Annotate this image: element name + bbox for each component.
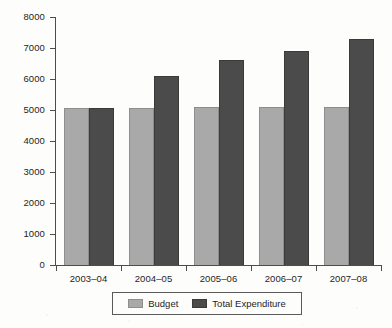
bar-total-expenditure xyxy=(349,39,374,265)
x-axis-tick-label: 2006–07 xyxy=(251,274,316,284)
x-axis-tick xyxy=(56,266,57,271)
y-axis-tick xyxy=(50,79,55,80)
bar-budget xyxy=(259,107,284,265)
y-axis-tick-label: 4000 xyxy=(23,136,45,146)
y-axis-tick xyxy=(50,203,55,204)
bar-budget xyxy=(194,107,219,265)
expenditure-swatch xyxy=(192,299,207,308)
bar-total-expenditure xyxy=(284,51,309,265)
y-axis-tick-label: 0 xyxy=(40,260,45,270)
y-axis-tick-label: 7000 xyxy=(23,43,45,53)
x-axis-line xyxy=(55,265,382,266)
legend-entry: Budget xyxy=(128,299,178,309)
bar-budget xyxy=(129,108,154,265)
y-axis-tick-label: 3000 xyxy=(23,167,45,177)
y-axis-tick-label: 8000 xyxy=(23,12,45,22)
bar-total-expenditure xyxy=(219,60,244,265)
y-axis-tick-label: 5000 xyxy=(23,105,45,115)
x-axis-tick-label: 2003–04 xyxy=(56,274,121,284)
x-axis-tick-label: 2007–08 xyxy=(316,274,381,284)
bar-budget xyxy=(324,107,349,265)
x-axis-tick xyxy=(316,266,317,271)
y-axis-tick-label: 1000 xyxy=(23,229,45,239)
y-axis-tick xyxy=(50,265,55,266)
y-axis-tick-label: 2000 xyxy=(23,198,45,208)
legend-label: Total Expenditure xyxy=(212,299,285,309)
chart-legend: BudgetTotal Expenditure xyxy=(112,292,302,315)
x-axis-tick xyxy=(186,266,187,271)
x-axis-tick xyxy=(251,266,252,271)
plot-area xyxy=(56,17,381,265)
x-axis-tick xyxy=(381,266,382,271)
x-axis-tick-label: 2004–05 xyxy=(121,274,186,284)
x-axis-tick-label: 2005–06 xyxy=(186,274,251,284)
bar-total-expenditure xyxy=(89,108,114,265)
y-axis-tick xyxy=(50,17,55,18)
bar-chart: 010002000300040005000600070008000 2003–0… xyxy=(0,0,392,328)
y-axis-tick xyxy=(50,110,55,111)
legend-label: Budget xyxy=(148,299,178,309)
y-axis-tick-label: 6000 xyxy=(23,74,45,84)
y-axis-tick xyxy=(50,141,55,142)
budget-swatch xyxy=(128,299,143,308)
x-axis-tick xyxy=(121,266,122,271)
legend-entry: Total Expenditure xyxy=(192,299,285,309)
y-axis-tick xyxy=(50,48,55,49)
y-axis-tick xyxy=(50,234,55,235)
bar-budget xyxy=(64,108,89,265)
bar-total-expenditure xyxy=(154,76,179,265)
y-axis-tick xyxy=(50,172,55,173)
